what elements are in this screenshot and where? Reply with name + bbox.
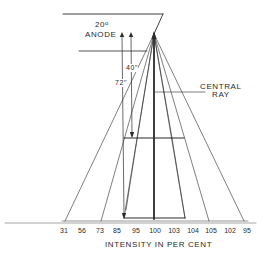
intensity-tick: 104 — [187, 227, 199, 235]
intensity-tick: 100 — [149, 227, 161, 235]
beam-line-85-lower — [126, 146, 136, 210]
focal-spot — [152, 31, 157, 39]
intensity-tick: 103 — [168, 227, 180, 235]
degree-symbol: o — [105, 20, 109, 26]
beam-line-73 — [101, 34, 154, 221]
dimension-line-40 — [131, 35, 132, 136]
intensity-tick: 73 — [96, 227, 104, 235]
anode-label: ANODE — [85, 31, 116, 39]
anode-face-edge — [154, 14, 163, 34]
arrow-40-top — [129, 32, 133, 37]
beam-line-105 — [154, 34, 209, 221]
intensity-tick: 95 — [132, 227, 140, 235]
intensity-tick: 105 — [205, 227, 217, 235]
beam-line-inner-left — [124, 34, 154, 218]
distance-72-label: 72" — [115, 79, 127, 87]
distance-40-label: 40" — [126, 64, 138, 72]
beam-line-95-right — [154, 34, 244, 221]
anode-angle-label: 20o — [95, 21, 109, 29]
intensity-tick: 56 — [78, 227, 86, 235]
film-plane-72-right-edge — [172, 138, 185, 218]
intensity-tick: 102 — [224, 227, 236, 235]
intensity-tick: 95 — [243, 227, 251, 235]
intensity-axis-title: INTENSITY IN PER CENT — [105, 241, 212, 249]
arrow-40-bottom — [130, 132, 134, 138]
dimension-line-72 — [122, 35, 124, 216]
central-ray-label-line2: RAY — [212, 91, 230, 99]
intensity-tick: 85 — [113, 227, 121, 235]
anode-angle-value: 20 — [95, 20, 105, 29]
intensity-tick: 31 — [60, 227, 68, 235]
arrow-72-top — [120, 32, 124, 37]
beam-line-31 — [65, 34, 154, 221]
heel-effect-diagram: 20o ANODE 40" 72" CENTRAL RAY 31 56 73 8… — [0, 0, 266, 266]
